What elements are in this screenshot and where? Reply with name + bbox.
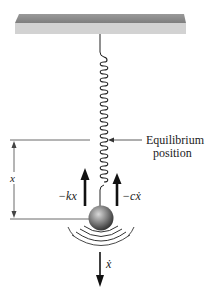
spring-force-arrow [81, 168, 90, 206]
spring-top-wire [100, 34, 104, 57]
equilibrium-pointer-arrow [108, 138, 142, 143]
spring-force-label: −kx [58, 189, 77, 203]
equilibrium-label-line2: position [153, 146, 192, 160]
velocity-arrow [96, 252, 104, 287]
spring-bottom-wire [100, 185, 104, 206]
spring-mass-diagram: Equilibrium position x −kx −cẋ ẋ [0, 0, 210, 292]
equilibrium-label-line1: Equilibrium [146, 133, 205, 147]
damping-force-arrow [113, 173, 122, 206]
spring [100, 57, 108, 182]
ceiling-support [15, 14, 186, 34]
mass-ball [89, 206, 114, 231]
damping-force-label: −cẋ [122, 189, 141, 203]
velocity-label: ẋ [105, 257, 112, 271]
displacement-label: x [9, 172, 15, 184]
